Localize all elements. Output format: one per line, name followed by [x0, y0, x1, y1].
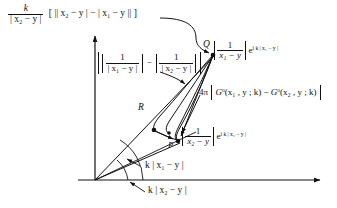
term1-bar-close [142, 54, 143, 73]
P-exp-power: i k | x₂ − y | [220, 131, 246, 137]
amplitude-term-1-den: | x₁ − y | [106, 63, 140, 73]
greens-difference-label: 4π Go(x₁ , y ; k) − Go(x₂ , y ; k) [199, 85, 321, 100]
amplitude-minus-sign: − [147, 57, 152, 67]
amplitude-term-2-den: | x₂ − y | [159, 63, 193, 73]
greens-minus: − [263, 87, 268, 97]
point-label-Q: Q [203, 40, 210, 50]
figure-canvas: k | x₂ − y | [ || x₂ − y | − | x₁ − y ||… [0, 0, 337, 208]
angle-arc-group [117, 140, 143, 180]
term2-bar-open [156, 54, 157, 73]
point-label-P-text: P [168, 140, 173, 150]
leader-top-formula-to-Q [160, 18, 209, 53]
amplitude-term-2-num: 1 [159, 53, 193, 62]
top-formula-bracket: [ || x₂ − y | − | x₁ − y || ] [49, 9, 137, 19]
amplitude-difference-label: 1 | x₁ − y | − 1 | x₂ − y | [98, 52, 201, 74]
angle-arc-upper [120, 140, 143, 180]
leader-angle-lower [130, 182, 145, 192]
P-abs-bar-open [182, 127, 183, 146]
angle-label-upper: k | x₁ − y | [145, 161, 184, 171]
point-label-Q-text: Q [203, 39, 210, 49]
top-formula: k | x₂ − y | [ || x₂ − y | − | x₁ − y ||… [8, 4, 137, 24]
ray-lower-x2-ext [95, 132, 196, 180]
Q-fraction-den: x₁ − y [217, 50, 243, 60]
greens-abs-bar-close [320, 85, 321, 100]
P-fraction-num: 1 [185, 127, 211, 136]
Q-abs-bar-close [245, 41, 246, 60]
greens-prefactor: 4π [199, 87, 208, 97]
point-R-dot [152, 128, 157, 133]
P-abs-bar-close [213, 127, 214, 146]
amplitude-term-1-num: 1 [106, 53, 140, 62]
amplitude-term-2: 1 | x₂ − y | [159, 53, 193, 72]
Q-fraction-num: 1 [217, 41, 243, 50]
top-formula-numerator: k [8, 4, 43, 14]
top-formula-coefficient: k | x₂ − y | [8, 4, 43, 24]
abs-bar-open [98, 52, 99, 74]
P-fraction: 1 x₂ − y [185, 127, 211, 146]
Q-exp-power: i k | x₁ − y | [252, 45, 278, 51]
point-label-P: P [168, 141, 173, 150]
top-formula-denominator: | x₂ − y | [8, 14, 43, 25]
angle-label-lower-text: k | x₂ − y | [148, 185, 187, 195]
label-P-expression: 1 x₂ − y ei k | x₂ − y | [182, 127, 246, 146]
Q-fraction: 1 x₁ − y [217, 41, 243, 60]
arrow-R-to-P [153, 130, 173, 139]
angle-label-lower: k | x₂ − y | [148, 186, 187, 196]
point-label-R-text: R [138, 102, 144, 112]
term1-bar-open [102, 54, 103, 73]
greens-g2-args: (x₂ , y ; k) [280, 87, 316, 97]
label-Q-expression: 1 x₁ − y ei k | x₁ − y | [214, 41, 278, 60]
term2-bar-close [195, 54, 196, 73]
greens-g1-args: (x₁ , y ; k) [225, 87, 261, 97]
P-fraction-den: x₂ − y [185, 136, 211, 146]
greens-abs-bar-open [211, 85, 212, 100]
amplitude-term-1: 1 | x₁ − y | [106, 53, 140, 72]
diagram-vector-layer [0, 0, 337, 208]
Q-abs-bar-open [214, 41, 215, 60]
angle-label-upper-text: k | x₁ − y | [145, 160, 184, 170]
abs-bar-close [200, 52, 201, 74]
point-mid-dot [167, 131, 171, 135]
point-P-dot [176, 139, 181, 144]
point-label-R: R [138, 103, 144, 113]
